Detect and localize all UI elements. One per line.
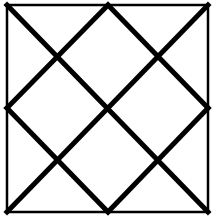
diagonal-lines <box>7 5 208 212</box>
square-lattice-diagram <box>0 0 213 217</box>
